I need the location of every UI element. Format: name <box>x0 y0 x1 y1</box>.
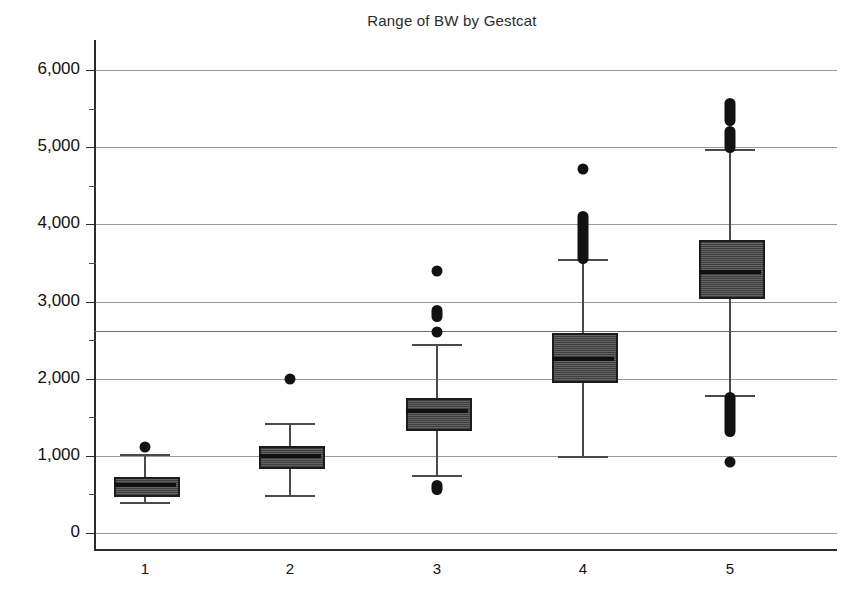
whisker-lower <box>289 465 291 495</box>
y-tick-0 <box>86 533 96 534</box>
whisker-lower <box>729 295 731 395</box>
x-tick-label-2: 2 <box>286 560 294 577</box>
y-tick-label-4000: 4,000 <box>2 213 80 233</box>
y-minor-tick-5500 <box>89 109 96 110</box>
x-tick-label-4: 4 <box>579 560 587 577</box>
cap-upper <box>120 454 170 456</box>
gridline-2000 <box>95 379 837 380</box>
x-axis-line <box>95 549 837 551</box>
y-tick-3000 <box>86 302 96 303</box>
x-axis-tick-labels: 12345 <box>95 560 837 588</box>
cap-upper <box>412 344 462 346</box>
y-tick-4000 <box>86 224 96 225</box>
cap-lower <box>265 495 315 497</box>
cap-lower <box>120 502 170 504</box>
y-tick-label-3000: 3,000 <box>2 291 80 311</box>
y-tick-label-6000: 6,000 <box>2 59 80 79</box>
whisker-upper <box>582 259 584 333</box>
y-tick-6000 <box>86 70 96 71</box>
whisker-lower <box>436 427 438 475</box>
y-tick-label-1000: 1,000 <box>2 445 80 465</box>
outlier-cluster <box>725 392 736 438</box>
median-line <box>114 483 176 487</box>
x-tick-label-1: 1 <box>141 560 149 577</box>
gridline-0 <box>95 533 837 534</box>
outlier-point <box>432 327 443 338</box>
gridline-6000 <box>95 70 837 71</box>
gridline-4000 <box>95 224 837 225</box>
y-minor-tick-4500 <box>89 186 96 187</box>
outlier-cluster <box>578 211 589 264</box>
x-tick-label-3: 3 <box>433 560 441 577</box>
outlier-cluster <box>725 98 736 126</box>
outlier-point <box>432 265 443 276</box>
whisker-upper <box>289 423 291 446</box>
median-line <box>552 357 614 361</box>
box-iqr[interactable] <box>406 398 472 431</box>
outlier-point <box>285 373 296 384</box>
y-minor-tick-1500 <box>89 417 96 418</box>
median-line <box>259 454 321 458</box>
y-minor-tick-2500 <box>89 340 96 341</box>
y-tick-5000 <box>86 147 96 148</box>
y-axis-tick-labels: 01,0002,0003,0004,0005,0006,000 <box>0 40 80 549</box>
outlier-point <box>578 163 589 174</box>
whisker-lower <box>582 379 584 456</box>
outlier-cluster <box>725 126 736 153</box>
chart-title: Range of BW by Gestcat <box>20 12 864 29</box>
box-plot-chart: Range of BW by Gestcat 01,0002,0003,0004… <box>0 0 864 599</box>
whisker-upper <box>144 454 146 476</box>
y-tick-label-2000: 2,000 <box>2 368 80 388</box>
y-tick-2000 <box>86 379 96 380</box>
cap-lower <box>558 456 608 458</box>
outlier-point <box>725 457 736 468</box>
x-tick-label-5: 5 <box>726 560 734 577</box>
y-tick-1000 <box>86 456 96 457</box>
median-line <box>699 270 761 274</box>
outlier-cluster <box>432 305 443 322</box>
cap-lower <box>412 475 462 477</box>
whisker-upper <box>729 149 731 239</box>
reference-line <box>95 331 837 332</box>
y-tick-label-5000: 5,000 <box>2 136 80 156</box>
median-line <box>406 409 468 413</box>
y-minor-tick-500 <box>89 494 96 495</box>
outlier-cluster <box>432 480 443 496</box>
y-tick-label-0: 0 <box>2 522 80 542</box>
cap-upper <box>265 423 315 425</box>
plot-area <box>95 40 837 549</box>
outlier-point <box>140 442 151 453</box>
gridline-3000 <box>95 302 837 303</box>
y-minor-tick-3500 <box>89 263 96 264</box>
whisker-upper <box>436 344 438 398</box>
